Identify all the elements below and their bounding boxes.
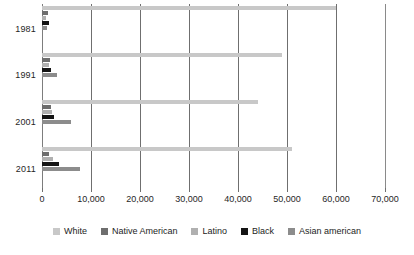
legend-swatch-black-icon bbox=[241, 228, 248, 235]
gridline-50000 bbox=[287, 4, 288, 190]
bar-2011-asian-american bbox=[42, 167, 80, 171]
legend-label-black: Black bbox=[252, 226, 274, 236]
y-axis-label-1981: 1981 bbox=[0, 24, 36, 34]
x-axis-label-30000: 30,000 bbox=[175, 194, 203, 204]
bar-2001-black bbox=[42, 115, 54, 119]
legend-item-native-american: Native American bbox=[101, 226, 178, 236]
bar-2011-black bbox=[42, 162, 59, 166]
chart-legend: White Native American Latino Black Asian… bbox=[0, 226, 414, 236]
bar-1991-asian-american bbox=[42, 73, 57, 77]
x-axis-label-50000: 50,000 bbox=[273, 194, 301, 204]
y-axis-label-1991: 1991 bbox=[0, 70, 36, 80]
tickmark-70000 bbox=[385, 188, 386, 192]
gridline-40000 bbox=[238, 4, 239, 190]
bar-1991-white bbox=[42, 53, 282, 57]
bar-2011-white bbox=[42, 147, 292, 151]
legend-item-asian-american: Asian american bbox=[288, 226, 361, 236]
bar-1991-native-american bbox=[42, 58, 50, 62]
bar-1981-asian-american bbox=[42, 26, 47, 30]
bar-2001-white bbox=[42, 100, 258, 104]
bar-1981-white bbox=[42, 6, 336, 10]
bar-1981-latino bbox=[42, 16, 46, 20]
legend-label-asian-american: Asian american bbox=[299, 226, 361, 236]
legend-item-white: White bbox=[53, 226, 87, 236]
legend-label-white: White bbox=[64, 226, 87, 236]
x-axis-label-0: 0 bbox=[39, 194, 44, 204]
bar-2001-native-american bbox=[42, 105, 51, 109]
legend-label-native-american: Native American bbox=[112, 226, 178, 236]
legend-item-latino: Latino bbox=[191, 226, 227, 236]
x-axis-label-70000: 70,000 bbox=[371, 194, 399, 204]
bar-2001-latino bbox=[42, 110, 52, 114]
legend-item-black: Black bbox=[241, 226, 274, 236]
bar-chart: 1981 1991 2001 2011 bbox=[0, 0, 414, 255]
plot-area bbox=[42, 4, 385, 190]
gridline-10000 bbox=[91, 4, 92, 190]
tickmark-0 bbox=[42, 188, 43, 192]
x-axis-label-10000: 10,000 bbox=[77, 194, 105, 204]
gridline-70000 bbox=[385, 4, 386, 190]
legend-label-latino: Latino bbox=[202, 226, 227, 236]
tickmark-20000 bbox=[140, 188, 141, 192]
tickmark-40000 bbox=[238, 188, 239, 192]
bar-1991-latino bbox=[42, 63, 49, 67]
x-axis-label-60000: 60,000 bbox=[322, 194, 350, 204]
tickmark-60000 bbox=[336, 188, 337, 192]
bar-1981-native-american bbox=[42, 11, 48, 15]
legend-swatch-asian-american-icon bbox=[288, 228, 295, 235]
legend-swatch-native-american-icon bbox=[101, 228, 108, 235]
bar-2011-latino bbox=[42, 157, 53, 161]
tickmark-50000 bbox=[287, 188, 288, 192]
gridline-30000 bbox=[189, 4, 190, 190]
bar-1981-black bbox=[42, 21, 49, 25]
tickmark-30000 bbox=[189, 188, 190, 192]
tickmark-10000 bbox=[91, 188, 92, 192]
gridline-60000 bbox=[336, 4, 337, 190]
y-axis-label-2011: 2011 bbox=[0, 164, 36, 174]
gridline-20000 bbox=[140, 4, 141, 190]
bar-2001-asian-american bbox=[42, 120, 71, 124]
y-axis-label-2001: 2001 bbox=[0, 117, 36, 127]
bar-2011-native-american bbox=[42, 152, 49, 156]
bar-1991-black bbox=[42, 68, 51, 72]
legend-swatch-white-icon bbox=[53, 228, 60, 235]
x-axis-label-40000: 40,000 bbox=[224, 194, 252, 204]
x-axis-label-20000: 20,000 bbox=[126, 194, 154, 204]
legend-swatch-latino-icon bbox=[191, 228, 198, 235]
